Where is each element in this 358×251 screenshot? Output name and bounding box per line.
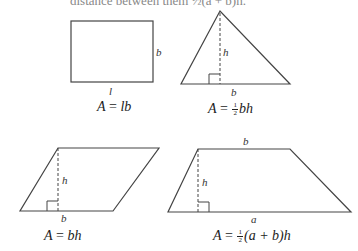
triangle-height-label: h	[223, 47, 229, 58]
formula-eq: =	[109, 99, 117, 114]
formula-lhs: A	[44, 228, 53, 243]
trapezoid-shape	[168, 149, 351, 212]
trapezoid-base-label: a	[251, 214, 257, 225]
parallelogram-formula: A = bh	[44, 229, 81, 243]
one-half-fraction: 12	[232, 102, 238, 117]
triangle-base-label: b	[231, 87, 237, 98]
formula-eq: =	[225, 228, 233, 243]
rectangle-formula: A = lb	[97, 100, 131, 114]
triangle-formula: A = 12bh	[208, 102, 253, 117]
formula-rhs: bh	[67, 228, 81, 243]
trapezoid-formula: A = 12(a + b)h	[213, 229, 291, 244]
formula-lhs: A	[97, 99, 106, 114]
triangle-shape	[181, 11, 290, 84]
trapezoid-right-angle-mark	[198, 202, 209, 212]
parallelogram-shape	[20, 148, 159, 211]
trapezoid-height-label: h	[202, 177, 208, 188]
shapes-canvas	[0, 0, 358, 251]
rectangle-side-label: b	[156, 47, 162, 58]
formula-lhs: A	[213, 228, 222, 243]
parallelogram-right-angle-mark	[47, 201, 58, 211]
formula-rhs: lb	[120, 99, 131, 114]
formula-eq: =	[56, 228, 64, 243]
formula-eq: =	[220, 101, 228, 116]
parallelogram-base-label: b	[61, 213, 67, 224]
trapezoid-top-label: b	[243, 136, 249, 147]
triangle-right-angle-mark	[209, 74, 220, 84]
parallelogram-height-label: h	[62, 175, 68, 186]
formula-rhs: bh	[239, 101, 253, 116]
rectangle-shape	[71, 21, 153, 82]
one-half-fraction: 12	[237, 229, 243, 244]
formula-rhs: (a + b)h	[244, 228, 291, 243]
rectangle-base-label: l	[109, 86, 112, 97]
formula-lhs: A	[208, 101, 217, 116]
